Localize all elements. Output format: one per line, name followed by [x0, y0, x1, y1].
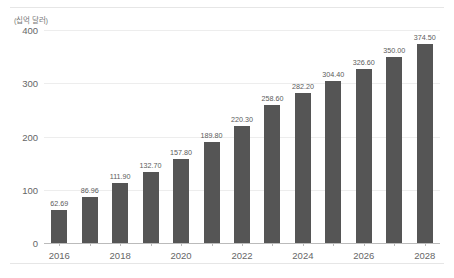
x-axis-tickmark	[181, 243, 182, 246]
x-axis-tickmark	[333, 243, 334, 246]
bar-group[interactable]: 220.302022	[227, 30, 257, 243]
bar-value-label: 157.80	[170, 148, 192, 157]
x-axis-tickmark	[242, 243, 243, 246]
bar-group[interactable]: 157.802020	[166, 30, 196, 243]
x-axis-tick-label: 2016	[49, 250, 70, 261]
bar-group[interactable]: 374.502028	[410, 30, 440, 243]
x-axis-tickmark	[394, 243, 395, 246]
bar[interactable]	[295, 93, 311, 243]
x-axis-tick-label: 2020	[170, 250, 191, 261]
x-axis-tick-label: 2026	[353, 250, 374, 261]
bar-group[interactable]: 86.96	[74, 30, 104, 243]
x-axis-tickmark	[59, 243, 60, 246]
bar[interactable]	[234, 126, 250, 243]
bar-value-label: 220.30	[231, 115, 253, 124]
y-axis-tick-label: 400	[22, 25, 38, 36]
bar[interactable]	[325, 81, 341, 243]
y-axis-tick-label: 300	[22, 78, 38, 89]
x-axis-tickmark	[425, 243, 426, 246]
bar[interactable]	[143, 172, 159, 243]
x-axis-tick-label: 2022	[231, 250, 252, 261]
bar-chart: (십억 달러) 0100200300400 62.69201686.96111.…	[0, 0, 454, 278]
bar-value-label: 326.60	[353, 58, 375, 67]
bar-group[interactable]: 62.692016	[44, 30, 74, 243]
bar-value-label: 304.40	[322, 70, 344, 79]
bar[interactable]	[356, 69, 372, 243]
bar-value-label: 350.00	[383, 46, 405, 55]
bar[interactable]	[173, 159, 189, 243]
bar-group[interactable]: 326.602026	[349, 30, 379, 243]
y-axis-unit-label: (십억 달러)	[14, 14, 48, 25]
bar[interactable]	[386, 57, 402, 243]
bar-value-label: 258.60	[261, 94, 283, 103]
bar-value-label: 111.90	[110, 172, 131, 181]
x-axis-tickmark	[120, 243, 121, 246]
x-axis-tick-label: 2024	[292, 250, 313, 261]
y-axis-tick-label: 0	[33, 238, 38, 249]
bar-value-label: 189.80	[201, 131, 223, 140]
bottom-divider	[10, 263, 444, 264]
bar[interactable]	[417, 44, 433, 243]
x-axis-tickmark	[151, 243, 152, 246]
bar[interactable]	[51, 210, 67, 243]
bar-value-label: 132.70	[140, 161, 162, 170]
bar-group[interactable]: 111.902018	[105, 30, 135, 243]
bar-group[interactable]: 304.40	[318, 30, 348, 243]
top-divider	[10, 7, 444, 8]
bar[interactable]	[204, 142, 220, 243]
bar-group[interactable]: 132.70	[135, 30, 165, 243]
x-axis-tickmark	[90, 243, 91, 246]
bar[interactable]	[112, 183, 128, 243]
bar-group[interactable]: 189.80	[196, 30, 226, 243]
bar-group[interactable]: 350.00	[379, 30, 409, 243]
x-axis-tick-label: 2018	[110, 250, 131, 261]
x-axis-tickmark	[303, 243, 304, 246]
bar-series: 62.69201686.96111.902018132.70157.802020…	[44, 30, 440, 243]
bar[interactable]	[82, 197, 98, 243]
bar-value-label: 374.50	[414, 33, 436, 42]
x-axis-tickmark	[212, 243, 213, 246]
y-axis-tick-label: 200	[22, 131, 38, 142]
bar[interactable]	[264, 105, 280, 243]
bar-group[interactable]: 282.202024	[288, 30, 318, 243]
y-axis-tick-label: 100	[22, 184, 38, 195]
bar-value-label: 86.96	[81, 186, 99, 195]
x-axis-tick-label: 2028	[414, 250, 435, 261]
bar-value-label: 282.20	[292, 82, 314, 91]
plot-area: 0100200300400 62.69201686.96111.90201813…	[44, 30, 440, 243]
bar-value-label: 62.69	[50, 199, 68, 208]
bar-group[interactable]: 258.60	[257, 30, 287, 243]
x-axis-tickmark	[272, 243, 273, 246]
x-axis-tickmark	[364, 243, 365, 246]
